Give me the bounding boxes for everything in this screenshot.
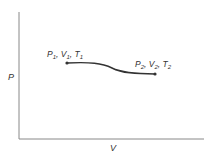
y-axis-label: P (8, 72, 14, 82)
x-axis-label: V (110, 143, 117, 153)
state-2-point (153, 72, 156, 75)
state-2-label: P2, V2, T2 (135, 59, 172, 70)
state-1-label: P1, V1, T1 (47, 49, 83, 60)
pv-diagram: P V P1, V1, T1 P2, V2, T2 (0, 0, 204, 159)
state-1-point (65, 61, 68, 64)
